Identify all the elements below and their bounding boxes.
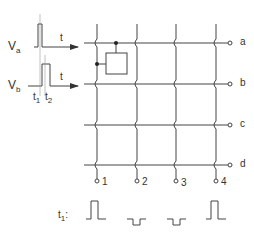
column-4-line xyxy=(214,24,216,179)
va-waveform xyxy=(34,24,78,47)
time-axis-label-b: t xyxy=(60,72,63,82)
row-label-b: b xyxy=(240,78,246,88)
vb-arrow-icon xyxy=(70,83,79,89)
column-4-pulse xyxy=(206,201,226,219)
t1-label: t1 xyxy=(33,92,40,102)
column-label-1: 1 xyxy=(102,177,108,187)
row-label-a: a xyxy=(240,37,246,47)
row-label-c: c xyxy=(240,119,245,129)
diagram-graphics xyxy=(0,0,254,232)
matrix-addressing-diagram: Va Vb t t t1 t2 a b c d 1 2 3 4 t1: xyxy=(0,0,254,232)
junction-dot-column-1 xyxy=(95,62,99,66)
column-2-pulse xyxy=(127,219,146,225)
column-3-pulse xyxy=(167,219,186,225)
column-2-line xyxy=(135,24,137,179)
column-3-line xyxy=(174,24,176,179)
vb-waveform xyxy=(28,64,78,86)
va-arrow-icon xyxy=(70,44,79,50)
time-axis-label-a: t xyxy=(60,33,63,43)
column-1-line xyxy=(95,24,97,179)
column-label-4: 4 xyxy=(221,177,227,187)
column-1-pulse xyxy=(86,201,106,219)
junction-dot-row-a xyxy=(114,41,118,45)
row-label-d: d xyxy=(240,159,246,169)
cell-element-box xyxy=(106,53,127,74)
column-label-3: 3 xyxy=(181,178,187,188)
column-label-2: 2 xyxy=(142,177,148,187)
vb-label: Vb xyxy=(8,79,20,91)
pulse-time-label: t1: xyxy=(58,210,68,220)
t2-label: t2 xyxy=(45,92,52,102)
va-label: Va xyxy=(8,40,20,52)
